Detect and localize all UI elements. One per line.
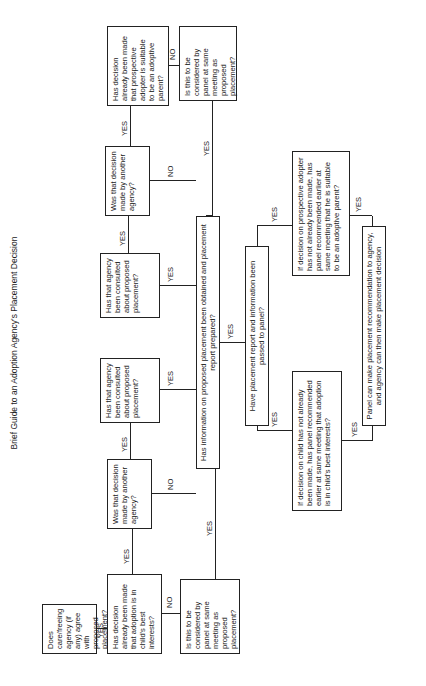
node-adopter-consulted: Has that agency been consulted about pro… <box>100 253 160 318</box>
node-text: Has that agency been consulted about pro… <box>104 258 140 313</box>
connector <box>257 226 258 246</box>
label-yes: YES <box>226 324 235 339</box>
connector <box>169 65 179 66</box>
label-yes: YES <box>96 623 105 638</box>
diagram-title: Brief Guide to an Adoption Agency's Plac… <box>9 183 19 503</box>
label-no: NO <box>166 479 175 490</box>
connector <box>162 613 180 614</box>
node-child-consulted: Has that agency been consulted about pro… <box>100 358 160 423</box>
node-text: Has information on proposed placement be… <box>199 221 217 464</box>
connector <box>212 101 213 216</box>
label-yes: YES <box>270 412 279 427</box>
label-yes: YES <box>270 207 279 222</box>
connector <box>220 342 245 343</box>
node-adopter-decision: Has decision already been made that pros… <box>107 26 169 106</box>
node-adopter-panel-same: Is this to be considered by panel at sam… <box>179 26 237 101</box>
flowchart-canvas: Brief Guide to an Adoption Agency's Plac… <box>0 0 426 686</box>
node-info-obtained: Has information on proposed placement be… <box>196 216 220 469</box>
label-no: NO <box>166 166 175 177</box>
connector <box>130 423 131 459</box>
node-text: Was that decision made by another agency… <box>109 151 136 211</box>
label-yes: YES <box>205 521 214 536</box>
label-yes: YES <box>354 197 363 212</box>
connector <box>150 180 196 181</box>
node-final-decision: Panel can make placement recommendation … <box>362 226 386 426</box>
connector <box>160 389 196 390</box>
connector <box>215 469 216 579</box>
node-text: Has decision already been made that adop… <box>111 584 156 649</box>
node-text: Is this to be considered by panel at sam… <box>183 48 237 96</box>
node-adopter-panel-recommend: If decision on prospective adopter has n… <box>292 151 350 276</box>
label-yes: YES <box>350 422 359 437</box>
node-child-panel-same: Is this to be considered by panel at sam… <box>180 579 240 654</box>
label-yes: YES <box>202 141 211 156</box>
node-text: Is this to be considered by panel at sam… <box>184 601 238 649</box>
connector <box>257 225 292 226</box>
connector <box>132 529 133 574</box>
label-no: NO <box>165 597 174 608</box>
label-yes: YES <box>166 267 175 282</box>
label-yes: YES <box>118 231 127 246</box>
node-child-other-agency: Was that decision made by another agency… <box>107 459 152 529</box>
node-adopter-other-agency: Was that decision made by another agency… <box>105 146 150 216</box>
connector <box>342 440 372 441</box>
connector <box>350 215 372 216</box>
connector <box>152 493 196 494</box>
connector <box>372 216 373 226</box>
node-report-passed: Have placement report and information be… <box>245 246 269 426</box>
node-text: Was that decision made by another agency… <box>111 464 138 524</box>
node-text: If decision on child has not already bee… <box>296 380 332 506</box>
connector <box>130 106 131 146</box>
node-child-decision: Has decision already been made that adop… <box>107 574 162 654</box>
label-no: NO <box>168 49 177 60</box>
label-yes: YES <box>122 549 131 564</box>
label-yes: YES <box>120 437 129 452</box>
node-care-agency: Does care/freeing agency (if any) agree … <box>42 604 97 654</box>
node-child-panel-recommend: If decision on child has not already bee… <box>292 371 342 511</box>
connector <box>160 285 196 286</box>
connector <box>128 216 129 253</box>
node-text: Has decision already been made that pros… <box>111 36 165 101</box>
node-text: Have placement report and information be… <box>248 251 266 421</box>
node-text: If decision on prospective adopter has n… <box>296 157 341 271</box>
connector <box>372 426 373 441</box>
label-yes: YES <box>166 371 175 386</box>
node-text: Panel can make placement recommendation … <box>365 231 383 421</box>
connector <box>257 430 292 431</box>
node-text: Has that agency been consulted about pro… <box>104 363 140 418</box>
label-yes: YES <box>120 121 129 136</box>
